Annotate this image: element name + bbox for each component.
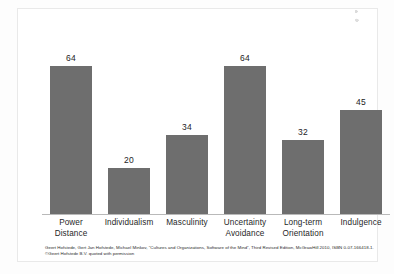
bar-value-label-5: 45 bbox=[356, 98, 366, 107]
x-axis-label-4-line-1: Orientation bbox=[274, 229, 332, 240]
x-axis-label-5-line-0: Indulgence bbox=[332, 218, 390, 229]
bar-rect-5[interactable] bbox=[340, 110, 382, 214]
scan-smudge-artifact bbox=[352, 6, 366, 28]
bar-chart-plot-area: 64 20 34 64 32 45 bbox=[42, 23, 390, 215]
bar-group-2[interactable]: 34 bbox=[166, 123, 208, 215]
x-axis-label-3: Uncertainty Avoidance bbox=[216, 218, 274, 239]
bar-rect-2[interactable] bbox=[166, 135, 208, 214]
chart-card: 64 20 34 64 32 45 bbox=[17, 8, 378, 262]
x-axis-label-0-line-0: Power bbox=[42, 218, 100, 229]
x-axis-label-3-line-1: Avoidance bbox=[216, 229, 274, 240]
bar-rect-4[interactable] bbox=[282, 140, 324, 214]
x-axis-label-0: Power Distance bbox=[42, 218, 100, 239]
bar-rect-0[interactable] bbox=[50, 66, 92, 214]
bar-value-label-0: 64 bbox=[66, 54, 76, 63]
x-axis-label-2-line-0: Masculinity bbox=[158, 218, 216, 229]
bar-value-label-4: 32 bbox=[298, 128, 308, 137]
x-axis-label-3-line-0: Uncertainty bbox=[216, 218, 274, 229]
bar-group-4[interactable]: 32 bbox=[282, 128, 324, 215]
x-axis-label-4-line-0: Long-term bbox=[274, 218, 332, 229]
x-axis-label-5: Indulgence bbox=[332, 218, 390, 229]
bar-group-5[interactable]: 45 bbox=[340, 98, 382, 215]
x-axis-label-1-line-0: Individualism bbox=[100, 218, 158, 229]
bar-group-1[interactable]: 20 bbox=[108, 156, 150, 215]
bar-group-3[interactable]: 64 bbox=[224, 54, 266, 215]
category-axis-line bbox=[42, 214, 390, 215]
bar-group-0[interactable]: 64 bbox=[50, 54, 92, 215]
bar-value-label-1: 20 bbox=[124, 156, 134, 165]
bar-value-label-2: 34 bbox=[182, 123, 192, 132]
category-axis-labels: Power Distance Individualism Masculinity… bbox=[42, 218, 390, 242]
x-axis-label-0-line-1: Distance bbox=[42, 229, 100, 240]
x-axis-label-2: Masculinity bbox=[158, 218, 216, 229]
bar-rect-1[interactable] bbox=[108, 168, 150, 214]
x-axis-label-1: Individualism bbox=[100, 218, 158, 229]
bar-rect-3[interactable] bbox=[224, 66, 266, 214]
x-axis-label-4: Long-term Orientation bbox=[274, 218, 332, 239]
source-citation: Geert Hofstede, Gert Jan Hofstede, Micha… bbox=[45, 245, 385, 258]
bar-value-label-3: 64 bbox=[240, 54, 250, 63]
scanned-page-background: 64 20 34 64 32 45 bbox=[0, 0, 394, 274]
